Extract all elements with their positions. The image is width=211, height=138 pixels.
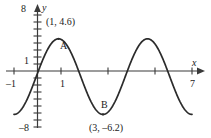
point-label-b: B	[101, 100, 108, 110]
y-axis-tick-label-neg8: –8	[19, 123, 29, 133]
x-axis-tick-label-7: 7	[190, 79, 195, 89]
x-axis-name-label: x	[192, 58, 196, 68]
x-axis-arrow-icon	[197, 68, 205, 75]
x-axis-tick-label-1: 1	[60, 79, 65, 89]
y-axis-tick-label-8: 8	[21, 4, 26, 14]
y-axis-name-label: y	[42, 3, 46, 13]
min-point-marker	[102, 113, 104, 115]
y-axis-tick-label-1: 1	[24, 56, 29, 66]
y-axis-arrow-icon	[34, 4, 41, 12]
max-point-coordinates-label: (1, 4.6)	[46, 17, 75, 27]
graph-plot-area	[0, 0, 211, 138]
sinusoidal-graph-figure: 8 1 –8 –1 1 7 y x A B (1, 4.6) (3, –6.2)	[0, 0, 211, 138]
x-axis-tick-label-neg1: –1	[6, 79, 16, 89]
min-point-coordinates-label: (3, –6.2)	[89, 123, 123, 133]
point-label-a: A	[60, 41, 67, 51]
